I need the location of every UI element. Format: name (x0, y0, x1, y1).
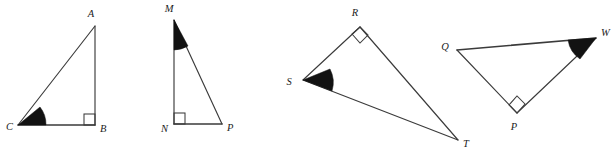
triangle-rst-right-angle-marker (352, 27, 368, 43)
triangle-qpw-shaded-angle-marker (568, 38, 596, 59)
vertex-label-p-qpw: P (510, 121, 518, 132)
triangle-abc-side-ca (18, 26, 95, 125)
vertex-label-p-mnp: P (226, 122, 234, 133)
vertex-label-q: Q (441, 41, 449, 52)
triangles-diagram: A B C M N P R S T (0, 0, 614, 153)
triangle-qpw-side-pq (457, 50, 517, 113)
triangle-rst-shaded-angle-marker (303, 69, 333, 91)
triangle-abc-shaded-angle-marker (18, 107, 46, 125)
triangle-rst: R S T (286, 7, 470, 149)
triangle-qpw: Q P W (441, 27, 611, 132)
vertex-label-c: C (6, 121, 14, 132)
triangle-mnp-shaded-angle-marker (174, 20, 188, 50)
triangle-mnp-right-angle-marker (174, 113, 185, 124)
triangle-mnp: M N P (160, 3, 234, 134)
triangle-qpw-right-angle-marker (509, 96, 525, 113)
geometry-figure: A B C M N P R S T (0, 0, 614, 153)
vertex-label-t: T (463, 138, 470, 149)
vertex-label-m: M (164, 3, 175, 14)
triangle-abc: A B C (6, 8, 107, 134)
vertex-label-b: B (100, 123, 107, 134)
triangle-abc-right-angle-marker (84, 114, 95, 125)
vertex-label-w: W (601, 27, 611, 38)
vertex-label-a: A (87, 8, 95, 19)
vertex-label-r: R (351, 7, 359, 18)
vertex-label-s: S (286, 76, 292, 87)
vertex-label-n: N (160, 123, 169, 134)
